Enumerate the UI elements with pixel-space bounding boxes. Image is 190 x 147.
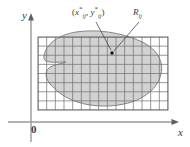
y-axis-arrowhead <box>28 13 34 21</box>
region-d-shape <box>44 31 162 106</box>
y-axis-label: y <box>22 10 27 21</box>
x-axis-label: x <box>178 127 183 138</box>
x-axis-arrowhead <box>172 119 180 125</box>
subrectangle-label: Rij <box>133 8 142 17</box>
figure-canvas: y x 0 (x*ij, y*ij) Rij <box>0 0 190 147</box>
r-subscript: ij <box>139 12 142 19</box>
region-group <box>44 31 162 106</box>
sample-point-label: (x*ij, y*ij) <box>72 8 104 17</box>
origin-label: 0 <box>31 124 37 135</box>
sample-point-marker <box>110 51 113 54</box>
paren-close: ) <box>101 7 104 17</box>
diagram-svg <box>0 0 190 147</box>
